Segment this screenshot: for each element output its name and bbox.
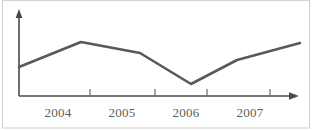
line-chart-svg: 2004 2005 2006 2007 — [0, 0, 314, 131]
x-tick-label-2007: 2007 — [237, 105, 264, 120]
x-tick-label-2004: 2004 — [45, 105, 72, 120]
x-tick-label-2006: 2006 — [173, 105, 200, 120]
chart-figure: 2004 2005 2006 2007 — [0, 0, 314, 131]
x-tick-label-2005: 2005 — [109, 105, 136, 120]
